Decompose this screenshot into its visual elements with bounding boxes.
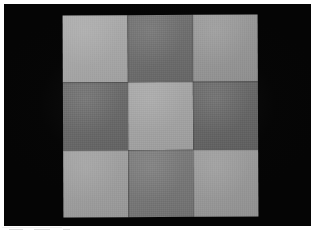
- scan-artifact-mark-2: [34, 229, 50, 230]
- swatch-r2c2: [128, 82, 193, 150]
- scan-artifact-streak: [2, 227, 62, 228]
- swatch-r3c2: [128, 150, 193, 218]
- swatch-r1c3: [193, 15, 258, 83]
- scan-artifact-mark-3: [63, 229, 70, 230]
- checkerboard-grid: [63, 15, 259, 218]
- photo-frame: [0, 0, 319, 233]
- swatch-r2c3: [193, 82, 258, 150]
- swatch-r3c1: [63, 150, 128, 218]
- swatch-r3c3: [193, 149, 258, 217]
- scan-artifact-mark-1: [9, 229, 23, 230]
- swatch-r1c1: [63, 15, 128, 83]
- swatch-r2c1: [63, 82, 128, 150]
- swatch-r1c2: [128, 15, 193, 83]
- scan-artifacts: [0, 226, 319, 233]
- photo-backdrop: [4, 4, 311, 226]
